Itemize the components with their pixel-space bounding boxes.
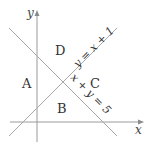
region-label-c: C bbox=[90, 76, 100, 91]
x-axis-label: x bbox=[135, 123, 142, 137]
y-axis-label: y bbox=[26, 6, 34, 20]
region-label-a: A bbox=[21, 76, 32, 91]
y-axis-arrow-icon bbox=[35, 10, 40, 16]
region-label-d: D bbox=[55, 43, 65, 58]
equation-label-y-eq-x-plus-1: y = x + 1 bbox=[70, 24, 117, 71]
coordinate-diagram: x y y = x + 1 x + y = 5 A B C D bbox=[0, 0, 148, 148]
x-axis bbox=[10, 120, 144, 125]
region-label-b: B bbox=[57, 101, 67, 116]
